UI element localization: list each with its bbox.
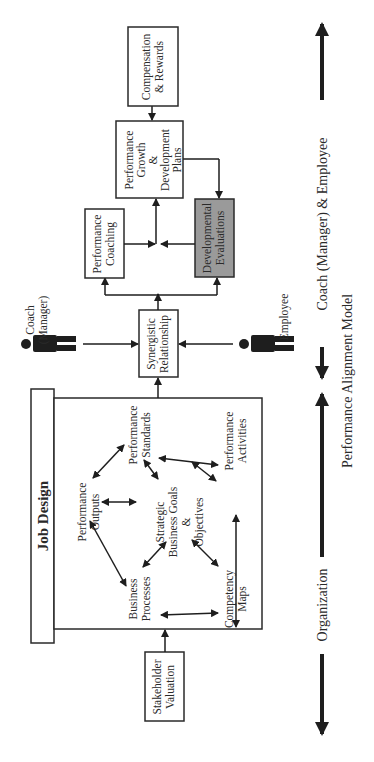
svg-text:Performance: Performance bbox=[91, 215, 103, 274]
svg-text:Processes: Processes bbox=[140, 576, 152, 621]
axis-label-organization: Organization bbox=[315, 569, 330, 642]
diagram-canvas: Job Design Performance Outputs Performan… bbox=[0, 0, 374, 762]
svg-text:Maps: Maps bbox=[236, 586, 249, 612]
compensation-rewards-box: Compensation & Rewards bbox=[128, 27, 178, 106]
job-design-title: Job Design bbox=[35, 480, 51, 551]
diagram-caption: Performance Alignment Model bbox=[340, 294, 355, 468]
developmental-evaluations-box: Developmental Evaluations bbox=[195, 199, 234, 277]
svg-text:Strategic: Strategic bbox=[154, 502, 167, 543]
svg-text:Growth: Growth bbox=[135, 142, 147, 177]
svg-text:Performance: Performance bbox=[127, 406, 139, 465]
svg-text:Coaching: Coaching bbox=[104, 222, 117, 266]
svg-text:&: & bbox=[147, 155, 159, 164]
synergy-split-arrows bbox=[105, 278, 217, 310]
coach-label-2: (Manager) bbox=[37, 296, 50, 345]
employee-label: Employee bbox=[278, 294, 291, 341]
svg-text:Business: Business bbox=[127, 578, 139, 619]
performance-growth-box: Performance Growth & Development Plans bbox=[116, 121, 183, 198]
svg-text:Valuation: Valuation bbox=[164, 665, 176, 709]
node-performance-standards: Performance Standards bbox=[127, 406, 152, 465]
svg-text:Performance: Performance bbox=[223, 412, 235, 471]
svg-text:Developmental: Developmental bbox=[201, 203, 214, 273]
svg-text:& Rewards: & Rewards bbox=[153, 40, 165, 93]
svg-text:Competency: Competency bbox=[223, 570, 236, 628]
svg-text:Performance: Performance bbox=[76, 483, 88, 542]
job-design-title-box: Job Design bbox=[31, 389, 54, 643]
svg-text:Objectives: Objectives bbox=[193, 497, 206, 547]
performance-coaching-box: Performance Coaching bbox=[85, 209, 124, 278]
svg-text:Standards: Standards bbox=[140, 412, 152, 458]
axis-label-coach-employee: Coach (Manager) & Employee bbox=[315, 138, 331, 311]
svg-text:Stakeholder: Stakeholder bbox=[151, 659, 163, 714]
svg-text:Plans: Plans bbox=[171, 147, 183, 172]
svg-text:Relationship: Relationship bbox=[158, 315, 171, 373]
node-performance-activities: Performance Activities bbox=[223, 412, 248, 471]
svg-text:Business Goals: Business Goals bbox=[167, 486, 179, 557]
svg-text:Performance: Performance bbox=[123, 131, 135, 190]
svg-text:Evaluations: Evaluations bbox=[214, 210, 226, 265]
svg-text:Synergistic: Synergistic bbox=[145, 318, 158, 370]
svg-text:Activities: Activities bbox=[236, 418, 248, 463]
svg-text:Compensation: Compensation bbox=[140, 34, 153, 101]
svg-text:Outputs: Outputs bbox=[89, 493, 102, 530]
svg-text:&: & bbox=[180, 517, 192, 526]
synergistic-relationship-box: Synergistic Relationship bbox=[139, 310, 178, 377]
node-business-processes: Business Processes bbox=[127, 576, 152, 621]
stakeholder-valuation-box: Stakeholder Valuation bbox=[145, 652, 184, 721]
coach-label-1: Coach bbox=[24, 305, 36, 335]
